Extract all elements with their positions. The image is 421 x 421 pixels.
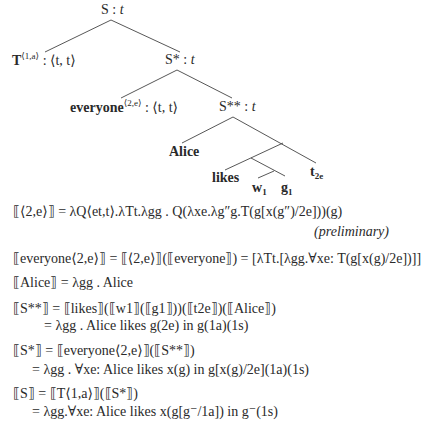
formula-s-starstar: ⟦S**⟧ = ⟦likes⟧(⟦w1⟧(⟦g1⟧))(⟦t2e⟧)(⟦Alic… — [13, 300, 276, 317]
formula-rhs: = λQ⟨et,t⟩.λTt.λgg . Q(λxe.λg″g.T(g[x(g″… — [58, 204, 342, 219]
leaf-sub: 1 — [262, 187, 267, 197]
tree-node-everyone: everyone⟨2,e⟩ : ⟨t, t⟩ — [70, 99, 178, 116]
node-type: ⟨t, t⟩ — [152, 100, 178, 115]
node-label: S** — [219, 99, 241, 114]
leaf-sub: 1 — [288, 187, 293, 197]
formula-shifter-definition: ⟦⟨2,e⟩⟧ = λQ⟨et,t⟩.λTt.λgg . Q(λxe.λg″g.… — [13, 203, 342, 220]
node-label: everyone — [70, 100, 124, 115]
formula-s-starstar-result: = λgg . Alice likes g(2e) in g(1a)(1s) — [44, 318, 248, 334]
node-label: T — [12, 53, 21, 68]
formula-s-star-result: = λgg . ∀xe: Alice likes x(g) in g[x(g)/… — [32, 361, 309, 378]
tree-leaf-t2e: t2e — [310, 164, 323, 180]
node-label: S — [101, 2, 109, 17]
formula-note: (preliminary) — [314, 224, 389, 240]
node-type: t — [252, 99, 256, 114]
leaf-label: g — [281, 180, 288, 195]
formula-s-result: = λgg.∀xe: Alice likes x(g[g⁻/1a]) in g⁻… — [32, 403, 278, 420]
formula-alice: ⟦Alice⟧ = λgg . Alice — [13, 274, 133, 291]
formula-s: ⟦S⟧ = ⟦T⟨1,a⟩⟧(⟦S*⟧) — [13, 385, 138, 402]
tree-leaf-likes: likes — [212, 170, 239, 186]
tree-node-T: T⟨1,a⟩ : ⟨t, t⟩ — [12, 52, 76, 69]
tree-leaf-w1: w1 — [252, 180, 267, 196]
node-label: S* — [165, 52, 180, 67]
tree-node-root: S : t — [101, 2, 124, 18]
syntax-tree-branches — [0, 0, 401, 200]
node-index: ⟨1,a⟩ — [21, 51, 39, 61]
formula-s-star: ⟦S*⟧ = ⟦everyone⟨2,e⟩⟧(⟦S**⟧) — [13, 342, 195, 359]
node-type: t — [120, 2, 124, 17]
formula-lhs: ⟦⟨2,e⟩⟧ — [13, 204, 55, 219]
node-type: t — [191, 52, 195, 67]
tree-leaf-g1: g1 — [281, 180, 293, 196]
formula-everyone: ⟦everyone⟨2,e⟩⟧ = ⟦⟨2,e⟩⟧(⟦everyone⟧) = … — [13, 250, 421, 267]
leaf-label: w — [252, 180, 262, 195]
tree-node-s-starstar: S** : t — [219, 99, 256, 115]
node-index: ⟨2,e⟩ — [124, 98, 142, 108]
node-type: ⟨t, t⟩ — [50, 53, 76, 68]
tree-leaf-alice: Alice — [169, 144, 199, 160]
tree-node-s-star: S* : t — [165, 52, 195, 68]
leaf-sub: 2e — [315, 171, 324, 181]
